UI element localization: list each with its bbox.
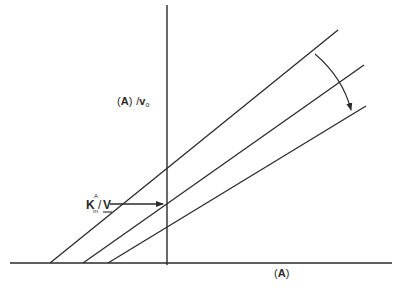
hanes-woolf-plot: (A)/vo (A) K A m / V [0,0,402,288]
x-axis-label: (A) [274,267,289,279]
svg-text:V: V [103,198,111,212]
line-1 [50,30,338,263]
y-axis-label: (A)/vo [117,95,149,108]
svg-text:/: / [98,198,102,212]
rotation-arrow-icon [315,54,351,110]
intercept-label: K A m / V [86,193,112,214]
